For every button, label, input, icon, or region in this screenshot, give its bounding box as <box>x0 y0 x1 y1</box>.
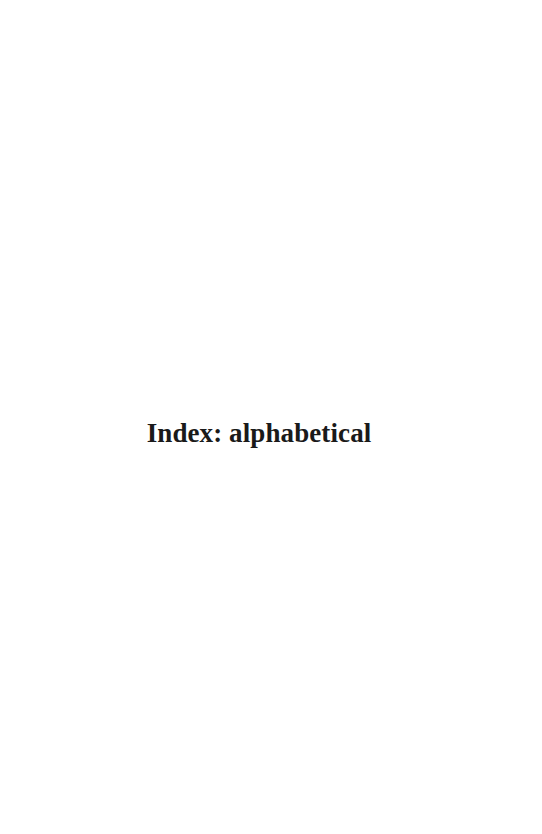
document-page: Index: alphabetical <box>0 0 542 834</box>
page-title: Index: alphabetical <box>0 418 542 448</box>
